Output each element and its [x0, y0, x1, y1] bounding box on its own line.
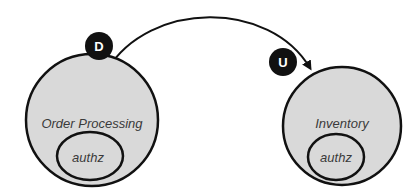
- node-label: Inventory: [315, 116, 370, 131]
- inner-label: authz: [72, 150, 104, 165]
- upstream-badge: U: [269, 48, 297, 76]
- node-label: Order Processing: [41, 116, 143, 131]
- context-map-diagram: Order Processing authz D Inventory authz…: [0, 0, 412, 195]
- node-inventory: Inventory authz: [283, 67, 401, 185]
- svg-text:U: U: [278, 55, 287, 70]
- node-order-processing: Order Processing authz: [26, 54, 158, 186]
- inner-label: authz: [320, 150, 352, 165]
- svg-text:D: D: [94, 39, 103, 54]
- downstream-badge: D: [85, 32, 113, 60]
